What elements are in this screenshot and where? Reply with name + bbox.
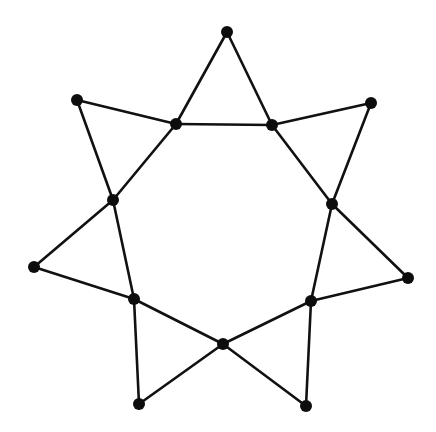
graph-node-inner: [107, 194, 119, 206]
graph-edge: [332, 103, 371, 204]
graph-edge: [227, 32, 272, 125]
graph-nodes: [28, 26, 414, 412]
graph-node-outer: [402, 272, 414, 284]
graph-edges: [34, 32, 408, 406]
graph-edge: [223, 301, 311, 344]
graph-edge: [272, 103, 371, 125]
graph-node-inner: [305, 295, 317, 307]
graph-node-outer: [71, 94, 83, 106]
graph-node-outer: [28, 261, 40, 273]
graph-edge: [311, 278, 408, 301]
graph-edge: [113, 124, 176, 200]
graph-node-inner: [326, 198, 338, 210]
graph-node-outer: [365, 97, 377, 109]
graph-node-inner: [128, 293, 140, 305]
graph-edge: [176, 124, 272, 125]
graph-edge: [134, 299, 139, 404]
graph-node-inner: [217, 338, 229, 350]
graph-node-outer: [133, 398, 145, 410]
graph-edge: [176, 32, 227, 124]
graph-edge: [134, 299, 223, 344]
graph-node-inner: [170, 118, 182, 130]
graph-edge: [77, 100, 113, 200]
graph-node-outer: [221, 26, 233, 38]
graph-edge: [113, 200, 134, 299]
graph-node-inner: [266, 119, 278, 131]
graph-edge: [223, 344, 306, 406]
graph-edge: [139, 344, 223, 404]
star-graph-diagram: [0, 0, 436, 432]
graph-edge: [306, 301, 311, 406]
graph-edge: [77, 100, 176, 124]
graph-edge: [311, 204, 332, 301]
graph-edge: [272, 125, 332, 204]
graph-edge: [34, 267, 134, 299]
graph-node-outer: [300, 400, 312, 412]
graph-edge: [34, 200, 113, 267]
graph-edge: [332, 204, 408, 278]
